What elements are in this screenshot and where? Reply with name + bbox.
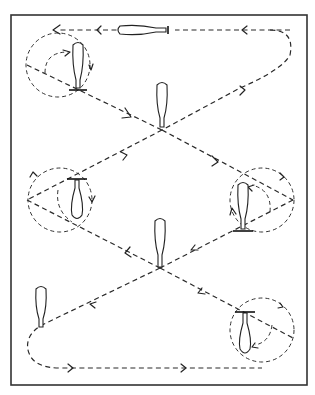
arrow-icon [63, 50, 70, 56]
arrow-icon [89, 64, 93, 70]
arrow-icon [252, 343, 258, 348]
arrow-icon [280, 173, 284, 180]
arrow-icon [122, 108, 131, 118]
skate-figures [36, 25, 255, 353]
skate-icon [67, 179, 87, 219]
turn-circle-mid-left [28, 168, 92, 232]
arrow-icon [90, 302, 96, 308]
arrow-icon [30, 172, 37, 177]
skating-diagram [0, 0, 315, 395]
arrow-icon [121, 152, 127, 160]
arrow-icon [212, 156, 218, 166]
skate-icon [118, 25, 168, 34]
arrow-icon [248, 185, 254, 191]
rink-frame [11, 15, 307, 385]
skate-icon [157, 83, 167, 128]
arrow-icon [240, 86, 245, 95]
arrow-icon [53, 25, 60, 34]
arrow-icon [68, 364, 73, 372]
arrow-icon [191, 245, 198, 250]
skate-icon [69, 43, 87, 91]
skate-icon [36, 287, 46, 328]
turn-circle-bottom-right [230, 298, 294, 362]
skate-icon [155, 219, 165, 268]
arrow-icon [278, 303, 283, 308]
skating-path [27, 30, 293, 368]
